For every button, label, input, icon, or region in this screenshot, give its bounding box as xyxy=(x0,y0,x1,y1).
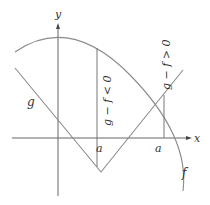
y-axis xyxy=(56,23,60,196)
right-a-label: a xyxy=(155,142,162,155)
left-a-label: a xyxy=(96,142,103,155)
left-inequality-label: g − f < 0 xyxy=(101,75,114,126)
y-axis-label: y xyxy=(54,8,62,21)
x-axis-arrow-icon xyxy=(186,136,192,140)
curve-f xyxy=(15,37,184,191)
right-inequality-label: g − f > 0 xyxy=(160,39,173,90)
graph-diagram: y x g f a a g − f < 0 g − f > 0 xyxy=(0,0,210,205)
g-label: g xyxy=(27,95,35,109)
y-axis-arrow-icon xyxy=(56,23,60,29)
f-label: f xyxy=(181,166,189,180)
x-axis xyxy=(12,136,192,140)
x-axis-label: x xyxy=(194,132,201,145)
curve-g xyxy=(15,68,183,172)
